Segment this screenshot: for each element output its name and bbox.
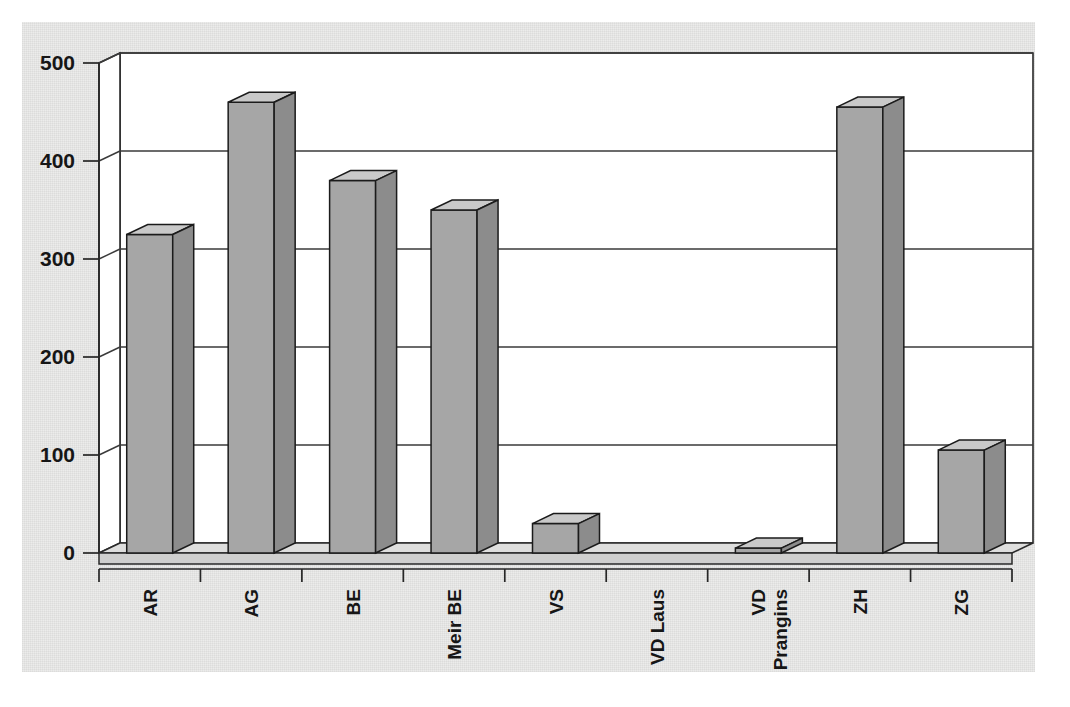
chart-canvas: 0100200300400500ARAGBEMeir BEVSVD LausVD… (0, 0, 1070, 707)
x-axis-category-label: VD Laus (647, 589, 668, 665)
bar-front-face (228, 102, 274, 553)
y-axis-tick-label: 100 (40, 443, 75, 466)
chart-floor-front (99, 553, 1012, 564)
x-axis-category-label: Prangins (770, 589, 791, 670)
bar-chart-figure: 0100200300400500ARAGBEMeir BEVSVD LausVD… (0, 0, 1070, 707)
x-axis-category-label: AR (140, 589, 161, 617)
bar-zh (837, 97, 904, 553)
y-axis-tick-label: 200 (40, 345, 75, 368)
bar-ar (127, 225, 194, 554)
bar-front-face (533, 524, 579, 553)
y-axis-tick-label: 300 (40, 247, 75, 270)
bar-side-face (883, 97, 904, 553)
x-axis-category-label: ZG (951, 589, 972, 615)
bar-side-face (173, 225, 194, 554)
bar-front-face (330, 181, 376, 553)
chart-side-wall (99, 53, 120, 553)
bar-front-face (431, 210, 477, 553)
bar-front-face (938, 450, 984, 553)
bar-vs (533, 514, 600, 553)
bar-front-face (127, 235, 173, 554)
y-axis-tick-label: 400 (40, 149, 75, 172)
y-axis-tick-label: 500 (40, 51, 75, 74)
bar-ag (228, 92, 295, 553)
bar-side-face (477, 200, 498, 553)
y-axis-tick-label: 0 (63, 541, 75, 564)
x-axis-category-label: VS (546, 589, 567, 614)
bar-side-face (274, 92, 295, 553)
x-axis-category-label: Meir BE (444, 589, 465, 660)
x-axis-category-label: VD (748, 589, 769, 615)
x-axis-category-label: AG (241, 589, 262, 618)
x-axis-category-label: ZH (850, 589, 871, 614)
bar-meir-be (431, 200, 498, 553)
bar-zg (938, 440, 1005, 553)
bar-front-face (837, 107, 883, 553)
bar-side-face (376, 171, 397, 553)
x-axis-category-label: BE (343, 589, 364, 615)
bar-side-face (984, 440, 1005, 553)
bar-be (330, 171, 397, 553)
